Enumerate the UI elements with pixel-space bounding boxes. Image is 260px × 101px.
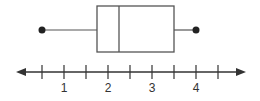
tick-label: 3	[149, 81, 156, 95]
max-point	[193, 27, 200, 34]
right-arrow-icon	[236, 68, 246, 76]
iqr-box	[97, 6, 174, 52]
box-plot-chart: 1234	[0, 0, 260, 101]
left-arrow-icon	[16, 68, 26, 76]
tick-label: 4	[193, 81, 200, 95]
min-point	[39, 27, 46, 34]
tick-label: 1	[61, 81, 68, 95]
tick-label: 2	[105, 81, 112, 95]
